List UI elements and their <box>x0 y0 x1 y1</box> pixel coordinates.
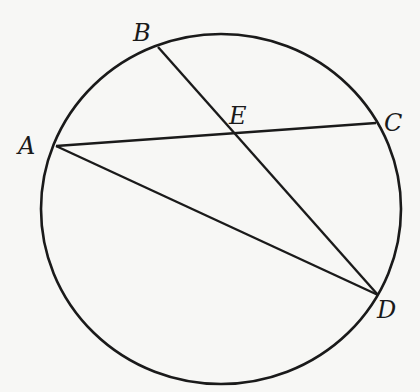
circle <box>41 34 401 384</box>
chord-ac <box>56 123 376 146</box>
point-label-b: B <box>132 19 151 47</box>
chord-ad <box>56 146 378 295</box>
point-label-d: D <box>376 296 396 324</box>
point-label-a: A <box>16 132 35 160</box>
chord-bd <box>158 47 378 295</box>
point-label-e: E <box>228 102 247 130</box>
point-label-c: C <box>384 109 402 137</box>
geometry-figure: A B C D E <box>0 0 420 392</box>
diagram-canvas: A B C D E <box>0 0 420 392</box>
